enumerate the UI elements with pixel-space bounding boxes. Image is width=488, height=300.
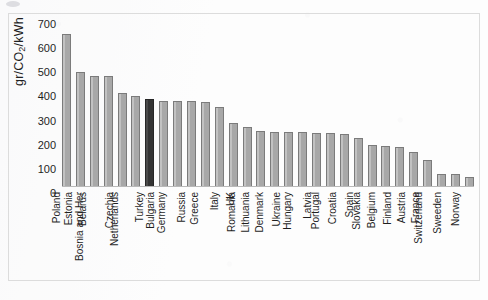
x-axis-category-label: Germany bbox=[157, 192, 167, 233]
bar bbox=[159, 101, 168, 187]
x-axis-category-label: Bosnia and Her bbox=[74, 192, 84, 261]
x-axis-label-slot: Italy bbox=[214, 190, 225, 295]
bar bbox=[284, 132, 293, 187]
bar-highlight-turkey bbox=[145, 99, 154, 187]
bar bbox=[270, 132, 279, 187]
figure-container: gr/CO2/kWh 0100200300400500600700 Poland… bbox=[0, 0, 488, 300]
y-axis-tick-label: 200 bbox=[38, 139, 56, 151]
bar bbox=[354, 138, 363, 187]
bar bbox=[173, 101, 182, 187]
x-axis-label-slot: Norway bbox=[463, 190, 474, 295]
bar bbox=[395, 147, 404, 187]
y-axis-tick-label: 300 bbox=[38, 115, 56, 127]
x-axis-category-label: Poland bbox=[52, 192, 62, 223]
y-axis-tick-label: 400 bbox=[38, 90, 56, 102]
bar bbox=[256, 131, 265, 187]
y-axis-tick-label: 600 bbox=[38, 42, 56, 54]
bar bbox=[423, 160, 432, 187]
y-axis-tick-label: 700 bbox=[38, 18, 56, 30]
x-axis-category-label: Netherlands bbox=[110, 192, 120, 246]
bar bbox=[104, 76, 113, 187]
bar bbox=[131, 96, 140, 187]
chart-plot-area bbox=[62, 24, 474, 187]
bar bbox=[229, 123, 238, 187]
bar bbox=[312, 133, 321, 187]
bar bbox=[118, 93, 127, 187]
x-axis-category-label: Belgium bbox=[367, 192, 377, 228]
y-axis-title-prefix: gr/CO bbox=[12, 52, 26, 86]
x-axis-category-label: Russia bbox=[177, 192, 187, 223]
bar bbox=[437, 174, 446, 188]
bar-series bbox=[62, 24, 474, 187]
bar bbox=[90, 76, 99, 187]
x-axis-category-label: Denmark bbox=[254, 192, 264, 233]
bar bbox=[201, 102, 210, 187]
x-axis-category-labels: PolandEstoniaBelarusBosnia and HerCzechi… bbox=[62, 190, 474, 295]
x-axis-category-label: Portugal bbox=[311, 192, 321, 229]
bar bbox=[409, 152, 418, 187]
y-axis-tick-label: 500 bbox=[38, 66, 56, 78]
x-axis-category-label: Ukraine bbox=[271, 192, 281, 226]
bar bbox=[298, 132, 307, 187]
bar bbox=[187, 101, 196, 187]
x-axis-baseline bbox=[62, 186, 474, 187]
x-axis-category-label: Croatia bbox=[328, 192, 338, 224]
bar bbox=[62, 34, 71, 187]
y-axis-tick-labels: 0100200300400500600700 bbox=[26, 18, 56, 187]
bar bbox=[76, 72, 85, 187]
x-axis-category-label: Hungary bbox=[283, 192, 293, 230]
bar bbox=[368, 145, 377, 187]
bar bbox=[340, 134, 349, 187]
x-axis-category-label: Bulgaria bbox=[146, 192, 156, 229]
x-axis-label-slot: Belarus bbox=[90, 190, 101, 295]
x-axis-category-label: Sweeden bbox=[433, 192, 443, 234]
bar bbox=[243, 127, 252, 187]
bar bbox=[215, 107, 224, 187]
y-axis-title: gr/CO2/kWh bbox=[12, 0, 27, 86]
x-axis-category-label: Norway bbox=[451, 192, 461, 226]
x-axis-category-label: Finland bbox=[383, 192, 393, 225]
y-axis-tick-label: 100 bbox=[38, 163, 56, 175]
x-axis-category-label: Lithuania bbox=[241, 192, 251, 233]
x-axis-category-label: Romania bbox=[227, 192, 237, 232]
bar bbox=[326, 133, 335, 187]
bar bbox=[381, 146, 390, 187]
x-axis-category-label: Greece bbox=[189, 192, 199, 225]
y-axis-title-suffix: /kWh bbox=[12, 17, 26, 46]
x-axis-category-label: Austria bbox=[397, 192, 407, 223]
x-axis-category-label: Slovakia bbox=[352, 192, 362, 230]
x-axis-category-label: Switzerland bbox=[415, 192, 425, 244]
x-axis-category-label: Italy bbox=[210, 192, 220, 210]
